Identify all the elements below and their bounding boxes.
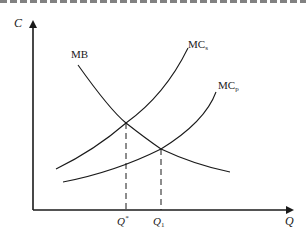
q-star-label: Q*: [117, 214, 129, 227]
externality-diagram: C Q MB MCs MCp Q* Q1: [0, 0, 306, 240]
mb-label: MB: [71, 48, 88, 60]
y-axis-label: C: [14, 16, 23, 30]
mcs-curve: [56, 48, 188, 169]
mb-curve: [78, 65, 230, 172]
mcp-label: MCp: [218, 79, 239, 93]
mcs-label: MCs: [188, 38, 208, 52]
mcp-curve: [63, 92, 216, 182]
x-axis-label: Q: [285, 214, 294, 228]
q1-label: Q1: [153, 215, 165, 229]
